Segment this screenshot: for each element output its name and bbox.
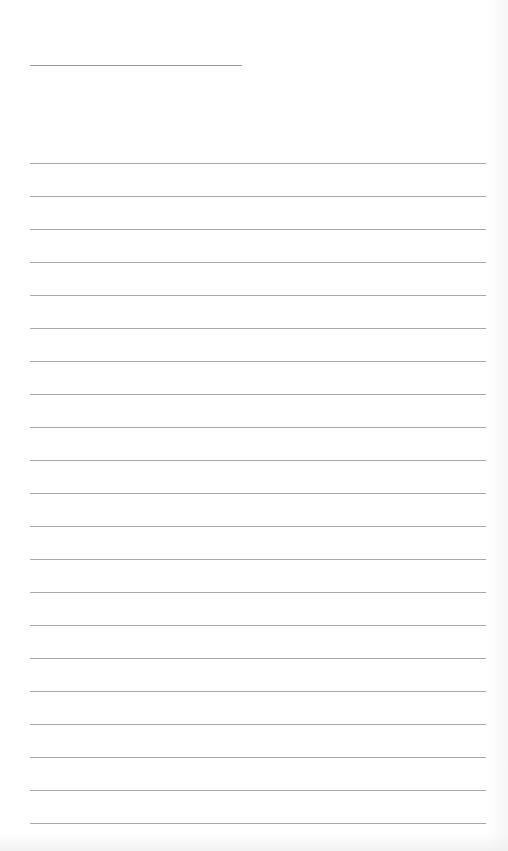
- ruled-line: [30, 658, 486, 659]
- ruled-line: [30, 790, 486, 791]
- ruled-line: [30, 625, 486, 626]
- ruled-line: [30, 295, 486, 296]
- ruled-line: [30, 328, 486, 329]
- ruled-line: [30, 427, 486, 428]
- ruled-line: [30, 757, 486, 758]
- ruled-line: [30, 262, 486, 263]
- ruled-line: [30, 592, 486, 593]
- ruled-line: [30, 163, 486, 164]
- ruled-line: [30, 691, 486, 692]
- ruled-line: [30, 229, 486, 230]
- ruled-line: [30, 493, 486, 494]
- title-line: [30, 65, 242, 66]
- ruled-line: [30, 526, 486, 527]
- lined-paper-page: [0, 0, 508, 851]
- ruled-line: [30, 394, 486, 395]
- ruled-line: [30, 460, 486, 461]
- page-edge-shadow: [0, 833, 508, 851]
- title-text: [30, 44, 242, 64]
- ruled-line: [30, 196, 486, 197]
- ruled-line: [30, 823, 486, 824]
- ruled-line: [30, 559, 486, 560]
- ruled-line: [30, 361, 486, 362]
- ruled-line: [30, 724, 486, 725]
